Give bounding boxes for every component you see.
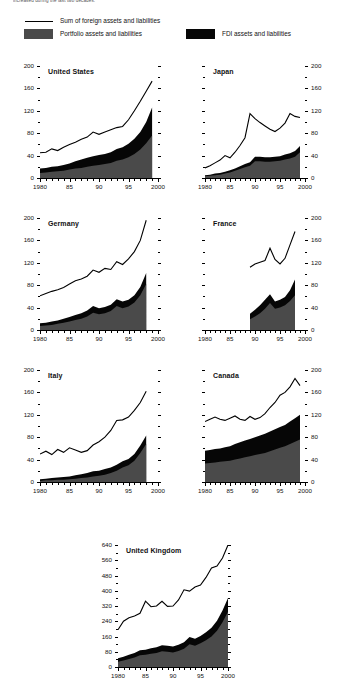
x-tickmark <box>184 668 185 670</box>
x-tickmark <box>146 668 147 671</box>
line-sum <box>118 545 228 630</box>
y-tickmark <box>228 591 231 592</box>
x-tickmark <box>129 668 130 670</box>
x-tick-label: 1980 <box>106 672 130 679</box>
y-tickmark <box>228 560 231 561</box>
plot-area <box>118 545 228 667</box>
y-tickmark <box>116 583 118 584</box>
y-tickmark <box>115 652 118 653</box>
y-tickmark <box>115 606 118 607</box>
y-tick-label: 480 <box>84 573 112 579</box>
y-tickmark <box>228 629 230 630</box>
x-tickmark <box>157 668 158 670</box>
y-tickmark <box>228 637 231 638</box>
y-tickmark <box>116 644 118 645</box>
y-tickmark <box>116 614 118 615</box>
x-tick-label: 2000 <box>216 672 240 679</box>
y-tickmark <box>115 560 118 561</box>
y-tickmark <box>228 621 231 622</box>
x-tick-label: 95 <box>189 672 213 679</box>
x-tickmark <box>201 668 202 671</box>
x-tickmark <box>179 668 180 670</box>
y-tickmark <box>115 637 118 638</box>
x-tickmark <box>217 668 218 670</box>
y-tickmark <box>115 545 118 546</box>
x-tickmark <box>190 668 191 670</box>
chart-panel-united-kingdom: 08016024032040048056064019808590952000Un… <box>0 0 338 688</box>
x-tickmark <box>168 668 169 670</box>
x-tickmark <box>173 668 174 671</box>
x-tickmark <box>124 668 125 670</box>
x-tickmark <box>118 668 119 671</box>
y-tickmark <box>228 553 230 554</box>
panel-title: United Kingdom <box>126 547 181 554</box>
x-tickmark <box>212 668 213 670</box>
y-tick-label: 80 <box>84 649 112 655</box>
y-tickmark <box>116 598 118 599</box>
y-tickmark <box>116 553 118 554</box>
y-tickmark <box>116 629 118 630</box>
x-tickmark <box>228 668 229 671</box>
area-portfolio <box>118 612 228 667</box>
x-tick-label: 85 <box>134 672 158 679</box>
x-tickmark <box>135 668 136 670</box>
x-tickmark <box>223 668 224 670</box>
y-tickmark <box>228 583 230 584</box>
y-tickmark <box>228 652 231 653</box>
y-tick-label: 560 <box>84 557 112 563</box>
y-tickmark <box>228 568 230 569</box>
y-tickmark <box>115 576 118 577</box>
y-tick-label: 160 <box>84 634 112 640</box>
y-tickmark <box>115 621 118 622</box>
y-tickmark <box>228 659 230 660</box>
y-tick-label: 400 <box>84 588 112 594</box>
x-tickmark <box>151 668 152 670</box>
y-tickmark <box>115 591 118 592</box>
y-tickmark <box>228 576 231 577</box>
y-tick-label: 0 <box>84 664 112 670</box>
y-tick-label: 320 <box>84 603 112 609</box>
y-tickmark <box>228 606 231 607</box>
y-tickmark <box>228 545 231 546</box>
x-tick-label: 90 <box>161 672 185 679</box>
y-tickmark <box>228 614 230 615</box>
y-tick-label: 640 <box>84 542 112 548</box>
x-tickmark <box>162 668 163 670</box>
x-tickmark <box>195 668 196 670</box>
y-tick-label: 240 <box>84 618 112 624</box>
x-tickmark <box>140 668 141 670</box>
y-tickmark <box>228 598 230 599</box>
x-tickmark <box>206 668 207 670</box>
y-tickmark <box>116 659 118 660</box>
y-tickmark <box>228 644 230 645</box>
y-tickmark <box>116 568 118 569</box>
